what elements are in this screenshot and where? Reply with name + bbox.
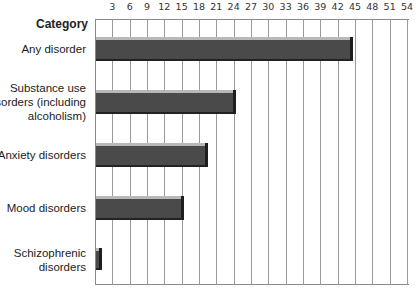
x-tick-label: 30 bbox=[262, 1, 274, 12]
gridline bbox=[407, 19, 408, 285]
gridline bbox=[355, 19, 356, 285]
x-tick-label: 51 bbox=[384, 1, 396, 12]
category-header: Category bbox=[36, 17, 88, 31]
category-label: Anxiety disorders bbox=[0, 148, 86, 162]
x-tick-label: 27 bbox=[245, 1, 257, 12]
bar-chart: Category 3691215182124273033363942454851… bbox=[0, 0, 416, 293]
category-label-line: Any disorder bbox=[0, 42, 86, 56]
category-label-line: disorders (including bbox=[0, 95, 86, 109]
bar bbox=[96, 90, 236, 114]
x-tick-label: 9 bbox=[144, 1, 150, 12]
x-tick-label: 24 bbox=[228, 1, 240, 12]
x-tick-label: 21 bbox=[210, 1, 222, 12]
category-label-line: Mood disorders bbox=[0, 201, 86, 215]
category-label-line: Anxiety disorders bbox=[0, 148, 86, 162]
bar bbox=[96, 248, 102, 270]
x-tick-label: 42 bbox=[332, 1, 344, 12]
category-label: Mood disorders bbox=[0, 201, 86, 215]
x-tick-label: 33 bbox=[280, 1, 292, 12]
category-label: Schizophrenicdisorders bbox=[0, 246, 86, 274]
bar bbox=[96, 143, 208, 167]
bar bbox=[96, 37, 353, 61]
x-tick-label: 54 bbox=[401, 1, 413, 12]
x-tick-label: 39 bbox=[314, 1, 326, 12]
x-tick-label: 15 bbox=[176, 1, 188, 12]
x-tick-label: 36 bbox=[297, 1, 309, 12]
category-label: Substance usedisorders (includingalcohol… bbox=[0, 81, 86, 123]
category-label: Any disorder bbox=[0, 42, 86, 56]
category-label-line: Substance use bbox=[0, 81, 86, 95]
category-label-line: alcoholism) bbox=[0, 109, 86, 123]
bar bbox=[96, 196, 184, 220]
x-tick-label: 48 bbox=[366, 1, 378, 12]
x-tick-label: 6 bbox=[127, 1, 133, 12]
x-tick-label: 18 bbox=[193, 1, 205, 12]
x-tick-label: 3 bbox=[109, 1, 115, 12]
gridline bbox=[390, 19, 391, 285]
gridline bbox=[372, 19, 373, 285]
category-label-line: disorders bbox=[0, 260, 86, 274]
category-label-line: Schizophrenic bbox=[0, 246, 86, 260]
x-tick-label: 12 bbox=[158, 1, 170, 12]
x-tick-label: 45 bbox=[349, 1, 361, 12]
